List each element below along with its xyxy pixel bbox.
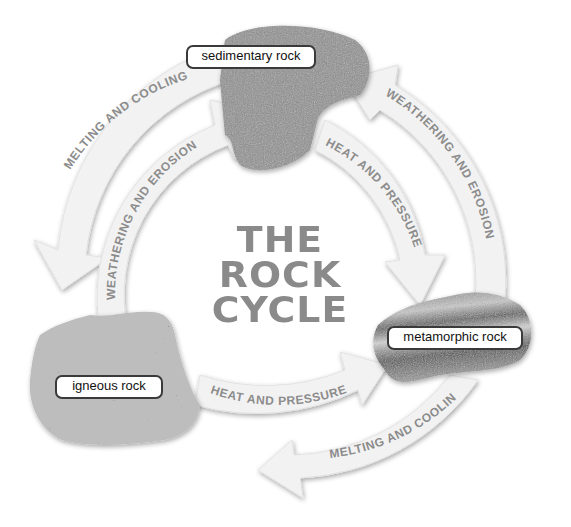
rock-cycle-diagram: MELTING AND COOLING WEATHERING AND EROSI… bbox=[0, 0, 571, 527]
title-line-1: THE bbox=[201, 222, 359, 257]
metamorphic-rock-label: metamorphic rock bbox=[387, 326, 523, 350]
sedimentary-rock-label: sedimentary rock bbox=[186, 45, 316, 69]
diagram-title: THE ROCK CYCLE bbox=[205, 222, 355, 327]
title-line-3: CYCLE bbox=[201, 292, 359, 327]
title-line-2: ROCK bbox=[201, 257, 359, 292]
igneous-rock-label: igneous rock bbox=[55, 375, 163, 399]
